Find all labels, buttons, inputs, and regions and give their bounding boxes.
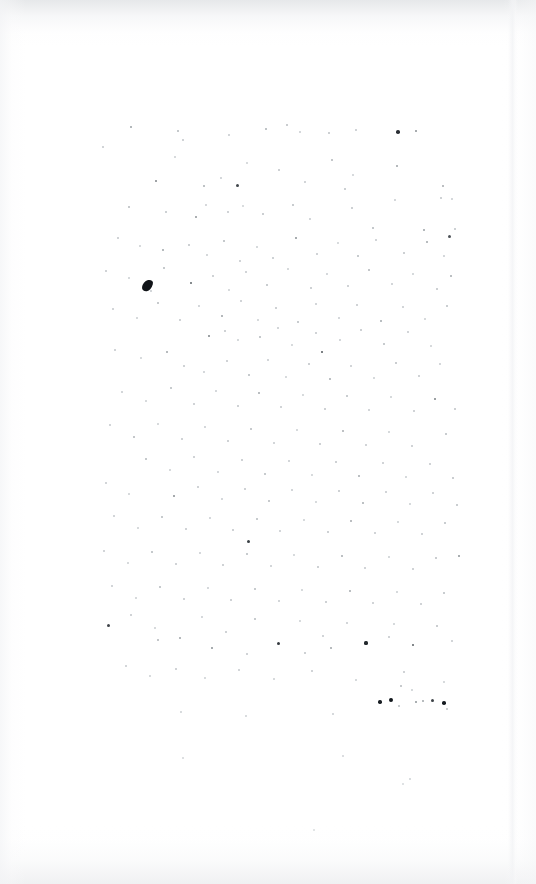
- paper-surface: [0, 0, 536, 884]
- scanned-page: [0, 0, 536, 884]
